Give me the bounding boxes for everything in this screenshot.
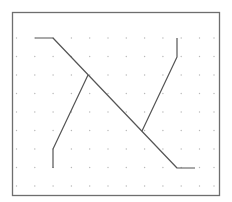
- grid-dot: [213, 185, 214, 186]
- grid-dot: [52, 130, 53, 131]
- grid-dot: [34, 74, 35, 75]
- grid-dot: [181, 111, 182, 112]
- grid-dot: [89, 93, 90, 94]
- grid-dot: [213, 56, 214, 57]
- grid-dot: [52, 185, 53, 186]
- grid-dot: [199, 167, 200, 168]
- grid-dot: [144, 56, 145, 57]
- grid-dot: [126, 37, 127, 38]
- grid-dot: [34, 148, 35, 149]
- grid-dot: [89, 185, 90, 186]
- grid-dot: [126, 130, 127, 131]
- grid-dot: [126, 56, 127, 57]
- grid-dot: [199, 93, 200, 94]
- grid-dot: [213, 130, 214, 131]
- grid-dot: [107, 56, 108, 57]
- grid-dot: [213, 37, 214, 38]
- grid-dot: [52, 56, 53, 57]
- grid-dot: [199, 130, 200, 131]
- grid-dot: [181, 148, 182, 149]
- grid-dot: [181, 130, 182, 131]
- grid-dot: [199, 148, 200, 149]
- main-diagonal-path: [35, 38, 195, 168]
- grid-dot: [16, 74, 17, 75]
- grid-dot: [34, 130, 35, 131]
- grid-dot: [144, 111, 145, 112]
- grid-dot: [16, 167, 17, 168]
- grid-dot: [213, 167, 214, 168]
- right-branch-path: [142, 38, 177, 131]
- grid-dot: [181, 74, 182, 75]
- grid-dot: [107, 130, 108, 131]
- grid-dot: [181, 185, 182, 186]
- grid-dot: [213, 74, 214, 75]
- grid-dot: [89, 56, 90, 57]
- grid-dot: [144, 93, 145, 94]
- grid-dot: [34, 56, 35, 57]
- grid-dot: [16, 185, 17, 186]
- grid-dot: [162, 185, 163, 186]
- grid-dot: [126, 111, 127, 112]
- grid-dot: [144, 37, 145, 38]
- grid-dot: [107, 111, 108, 112]
- grid-dot: [52, 74, 53, 75]
- grid-dot: [199, 37, 200, 38]
- grid-dot: [34, 167, 35, 168]
- grid-dot: [89, 167, 90, 168]
- grid-dot: [144, 130, 145, 131]
- grid-dot: [162, 37, 163, 38]
- grid-dot: [213, 148, 214, 149]
- grid-dot: [181, 37, 182, 38]
- grid-dot: [126, 74, 127, 75]
- dot-grid: [16, 37, 215, 186]
- grid-dot: [16, 130, 17, 131]
- grid-dot: [107, 167, 108, 168]
- grid-dot: [71, 74, 72, 75]
- grid-dot: [16, 93, 17, 94]
- grid-dot: [71, 37, 72, 38]
- grid-dot: [107, 37, 108, 38]
- grid-dot: [52, 93, 53, 94]
- grid-dot: [71, 93, 72, 94]
- grid-dot: [144, 167, 145, 168]
- grid-dot: [16, 148, 17, 149]
- grid-dot: [89, 111, 90, 112]
- grid-dot: [162, 111, 163, 112]
- grid-dot: [126, 148, 127, 149]
- grid-dot: [16, 56, 17, 57]
- grid-dot: [107, 185, 108, 186]
- grid-dot: [107, 74, 108, 75]
- grid-dot: [16, 37, 17, 38]
- grid-dot: [181, 93, 182, 94]
- grid-dot: [162, 130, 163, 131]
- grid-dot: [144, 185, 145, 186]
- grid-dot: [126, 93, 127, 94]
- grid-dot: [162, 93, 163, 94]
- grid-dot: [89, 37, 90, 38]
- grid-dot: [71, 130, 72, 131]
- diagram-canvas: [0, 0, 232, 202]
- grid-dot: [126, 185, 127, 186]
- grid-dot: [16, 111, 17, 112]
- grid-dot: [107, 148, 108, 149]
- grid-dot: [71, 185, 72, 186]
- grid-dot: [71, 167, 72, 168]
- grid-dot: [89, 130, 90, 131]
- grid-dot: [34, 185, 35, 186]
- grid-dot: [162, 167, 163, 168]
- grid-dot: [144, 148, 145, 149]
- grid-dot: [162, 74, 163, 75]
- grid-dot: [34, 93, 35, 94]
- grid-dot: [52, 111, 53, 112]
- grid-dot: [107, 93, 108, 94]
- grid-dot: [213, 111, 214, 112]
- grid-dot: [34, 111, 35, 112]
- grid-dot: [199, 185, 200, 186]
- grid-dot: [199, 111, 200, 112]
- grid-dot: [213, 93, 214, 94]
- grid-dot: [199, 74, 200, 75]
- connector-paths: [35, 38, 195, 168]
- left-branch-path: [53, 75, 88, 168]
- grid-dot: [144, 74, 145, 75]
- grid-dot: [181, 56, 182, 57]
